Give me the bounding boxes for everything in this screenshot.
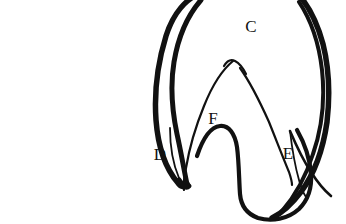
region-label-c: C xyxy=(245,17,256,36)
region-label-e: E xyxy=(283,144,293,163)
shape-diagram: C F D E xyxy=(0,0,346,224)
figure-page: Shape 7 C F D xyxy=(0,0,346,224)
region-label-f: F xyxy=(208,109,217,128)
region-label-d: D xyxy=(154,145,166,164)
